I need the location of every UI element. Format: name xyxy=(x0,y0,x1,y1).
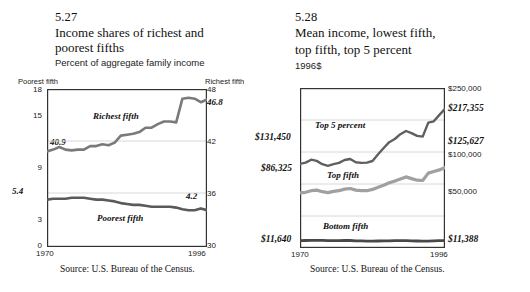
left-axis-tick-9: 9 xyxy=(18,163,42,172)
figure-title-528-line2: top fifth, top 5 percent xyxy=(295,42,520,58)
callout-top5-end: $217,355 xyxy=(448,103,484,113)
figure-number-528: 5.28 xyxy=(295,10,317,25)
callout-top5-start: $131,450 xyxy=(255,132,291,142)
left-axis-tick-15: 15 xyxy=(18,111,42,120)
figure-subtitle-527: Percent of aggregate family income xyxy=(55,57,204,68)
x-axis-end-1996: 1996 xyxy=(188,249,206,258)
figure-number-527: 5.27 xyxy=(55,10,77,25)
figures-page: 5.27 Income shares of richest and poores… xyxy=(0,0,530,292)
series-line-bottom-fifth xyxy=(300,240,445,241)
figure-subtitle-528: 1996$ xyxy=(295,60,321,71)
chart-plot-527 xyxy=(47,89,207,247)
callout-richest-end-46-8: 46.8 xyxy=(207,97,223,107)
series-line-top-fifth xyxy=(300,168,445,193)
source-note-527: Source: U.S. Bureau of the Census. xyxy=(60,264,195,274)
right-axis-tick-250000: $250,000 xyxy=(448,84,481,93)
callout-poorest-start-5-4: 5.4 xyxy=(12,186,23,196)
left-axis-tick-18: 18 xyxy=(18,85,42,94)
chart-frame-527 xyxy=(48,90,207,247)
figure-title-527-line1: Income shares of richest and xyxy=(55,25,255,41)
callout-bottomfifth-start: $11,640 xyxy=(261,234,291,244)
right-axis-tick-36: 36 xyxy=(207,189,216,198)
series-line-poorest-fifth xyxy=(47,198,207,210)
figure-panel-528: 5.28 Mean income, lowest fifth, top fift… xyxy=(265,0,530,292)
callout-bottomfifth-end: $11,388 xyxy=(448,234,478,244)
callout-topfifth-start: $86,325 xyxy=(261,163,292,173)
right-axis-tick-48: 48 xyxy=(207,85,216,94)
source-note-528: Source: U.S. Bureau of the Census. xyxy=(310,264,445,274)
left-axis-tick-3: 3 xyxy=(18,215,42,224)
series-line-top-5-percent xyxy=(300,109,445,166)
x-axis-start-1970: 1970 xyxy=(36,249,54,258)
right-axis-tick-30: 30 xyxy=(207,241,216,250)
figure-title-528-line1: Mean income, lowest fifth, xyxy=(295,25,520,41)
right-axis-tick-42: 42 xyxy=(207,137,216,146)
right-axis-tick-50000: $50,000 xyxy=(448,187,477,196)
series-line-richest-fifth xyxy=(47,98,207,152)
x-axis-end-1996-528: 1996 xyxy=(430,250,448,259)
chart-plot-528 xyxy=(300,88,445,248)
callout-topfifth-end: $125,627 xyxy=(448,136,484,146)
figure-title-527-line2: poorest fifths xyxy=(55,40,255,56)
right-axis-tick-100000: $100,000 xyxy=(448,150,481,159)
chart-frame-528 xyxy=(301,89,445,248)
figure-panel-527: 5.27 Income shares of richest and poores… xyxy=(0,0,265,292)
x-axis-start-1970-528: 1970 xyxy=(291,250,309,259)
